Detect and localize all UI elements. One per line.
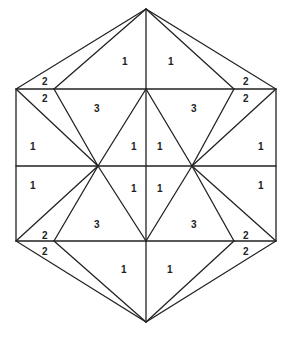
region-label: 1	[121, 264, 127, 275]
region-label: 1	[157, 183, 163, 194]
diagram-canvas: 1 1 2 2 2 2 3 3 1 1 1 1 1 1 1 1 3 3 2 2 …	[0, 0, 298, 341]
edge	[146, 9, 234, 89]
region-label: 1	[258, 141, 264, 152]
edge	[54, 89, 98, 166]
region-label: 1	[131, 183, 137, 194]
region-label: 1	[167, 264, 173, 275]
edge	[16, 89, 98, 166]
edge	[192, 166, 276, 241]
edge	[54, 241, 146, 322]
edge	[146, 89, 192, 166]
edge	[146, 166, 192, 241]
region-label: 2	[243, 230, 249, 241]
region-label: 2	[243, 246, 249, 257]
hexagon-diagram: 1 1 2 2 2 2 3 3 1 1 1 1 1 1 1 1 3 3 2 2 …	[0, 0, 298, 341]
region-label: 2	[42, 93, 48, 104]
region-label: 2	[243, 76, 249, 87]
region-label: 1	[168, 56, 174, 67]
region-label: 1	[157, 141, 163, 152]
region-label: 3	[191, 103, 197, 114]
edge	[98, 89, 146, 166]
edge	[192, 89, 234, 166]
region-label: 1	[258, 180, 264, 191]
region-label: 1	[122, 56, 128, 67]
region-label: 2	[243, 93, 249, 104]
edge	[192, 166, 234, 241]
edge	[54, 166, 98, 241]
edge	[54, 9, 146, 89]
region-label: 1	[30, 180, 36, 191]
region-label: 2	[42, 246, 48, 257]
edge	[98, 166, 146, 241]
region-label: 1	[131, 141, 137, 152]
edge	[192, 89, 276, 166]
diagram-lines	[16, 9, 276, 322]
region-label: 3	[191, 219, 197, 230]
edge	[146, 241, 234, 322]
region-label: 1	[30, 141, 36, 152]
edge	[16, 166, 98, 241]
region-label: 3	[94, 219, 100, 230]
region-label: 2	[42, 230, 48, 241]
region-label: 3	[94, 103, 100, 114]
region-label: 2	[42, 76, 48, 87]
